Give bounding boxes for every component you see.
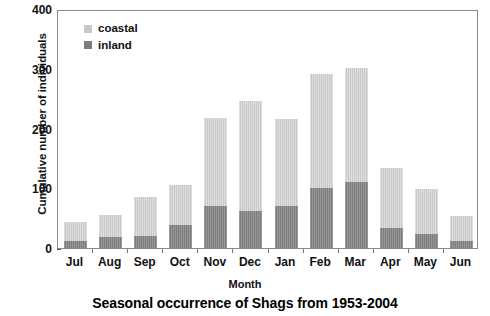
x-tick-label: Feb <box>303 256 338 268</box>
x-tick-mark <box>197 249 198 253</box>
legend-item-coastal: coastal <box>84 23 138 35</box>
x-tick-label: Mar <box>338 256 373 268</box>
legend-item-inland: inland <box>84 40 138 52</box>
y-axis-tick-labels: 0100200300400 <box>18 0 52 316</box>
plot-frame: coastal inland <box>57 10 478 249</box>
bar-segment-inland[interactable] <box>345 182 368 248</box>
bar-segment-coastal[interactable] <box>380 168 403 228</box>
bar-group[interactable] <box>275 119 298 248</box>
bar-group[interactable] <box>310 74 333 248</box>
bar-segment-coastal[interactable] <box>204 118 227 205</box>
bar-group[interactable] <box>64 222 87 248</box>
legend-swatch-inland-icon <box>84 41 92 49</box>
chart-figure: Cumulative number of individuals 0100200… <box>0 0 490 316</box>
x-tick-mark <box>373 249 374 253</box>
bar-segment-coastal[interactable] <box>415 189 438 234</box>
x-tick-mark <box>303 249 304 253</box>
x-tick-mark <box>443 249 444 253</box>
bar-segment-coastal[interactable] <box>64 222 87 241</box>
y-tick-label: 0 <box>18 243 52 255</box>
bar-segment-coastal[interactable] <box>345 68 368 183</box>
x-tick-label: Jul <box>57 256 92 268</box>
bar-group[interactable] <box>204 118 227 248</box>
x-tick-mark <box>162 249 163 253</box>
x-tick-label: Jun <box>443 256 478 268</box>
bar-segment-coastal[interactable] <box>275 119 298 206</box>
x-tick-mark <box>92 249 93 253</box>
bar-segment-inland[interactable] <box>415 234 438 248</box>
bar-segment-coastal[interactable] <box>450 216 473 242</box>
bar-segment-inland[interactable] <box>450 241 473 248</box>
y-tick-label: 300 <box>18 64 52 76</box>
bar-segment-inland[interactable] <box>169 225 192 248</box>
bar-segment-coastal[interactable] <box>99 215 122 237</box>
bar-group[interactable] <box>239 101 262 248</box>
x-tick-label: Jan <box>268 256 303 268</box>
bar-group[interactable] <box>345 68 368 248</box>
y-tick-label: 100 <box>18 183 52 195</box>
bar-segment-inland[interactable] <box>99 237 122 248</box>
bar-group[interactable] <box>380 168 403 248</box>
x-tick-label: Apr <box>373 256 408 268</box>
x-tick-label: Nov <box>197 256 232 268</box>
bar-group[interactable] <box>99 215 122 248</box>
bar-group[interactable] <box>134 197 157 248</box>
y-tick-label: 400 <box>18 4 52 16</box>
x-tick-mark <box>338 249 339 253</box>
bar-segment-inland[interactable] <box>239 211 262 248</box>
bar-segment-inland[interactable] <box>380 228 403 248</box>
bar-group[interactable] <box>169 185 192 248</box>
x-tick-label: Sep <box>127 256 162 268</box>
legend-label-coastal: coastal <box>98 23 138 35</box>
bar-segment-inland[interactable] <box>310 188 333 248</box>
bar-group[interactable] <box>415 189 438 248</box>
x-tick-mark <box>127 249 128 253</box>
legend-label-inland: inland <box>98 40 132 52</box>
x-tick-label: Oct <box>162 256 197 268</box>
bar-segment-inland[interactable] <box>134 236 157 248</box>
chart-legend: coastal inland <box>84 23 138 56</box>
legend-swatch-coastal-icon <box>84 25 92 33</box>
bar-segment-coastal[interactable] <box>169 185 192 225</box>
chart-caption: Seasonal occurrence of Shags from 1953-2… <box>0 295 490 311</box>
x-tick-label: May <box>408 256 443 268</box>
x-axis-tick-marks <box>57 249 478 254</box>
bar-group[interactable] <box>450 216 473 248</box>
bar-segment-inland[interactable] <box>275 206 298 248</box>
x-axis-tick-labels: JulAugSepOctNovDecJanFebMarAprMayJun <box>57 256 478 274</box>
y-tick-label: 200 <box>18 124 52 136</box>
bar-segment-coastal[interactable] <box>239 101 262 211</box>
bar-segment-inland[interactable] <box>204 206 227 248</box>
x-axis-title: Month <box>0 278 490 290</box>
bar-segment-coastal[interactable] <box>134 197 157 236</box>
x-tick-mark <box>408 249 409 253</box>
x-tick-mark <box>232 249 233 253</box>
bar-segment-inland[interactable] <box>64 241 87 248</box>
x-tick-label: Aug <box>92 256 127 268</box>
x-tick-mark <box>268 249 269 253</box>
x-tick-label: Dec <box>232 256 267 268</box>
bar-segment-coastal[interactable] <box>310 74 333 188</box>
